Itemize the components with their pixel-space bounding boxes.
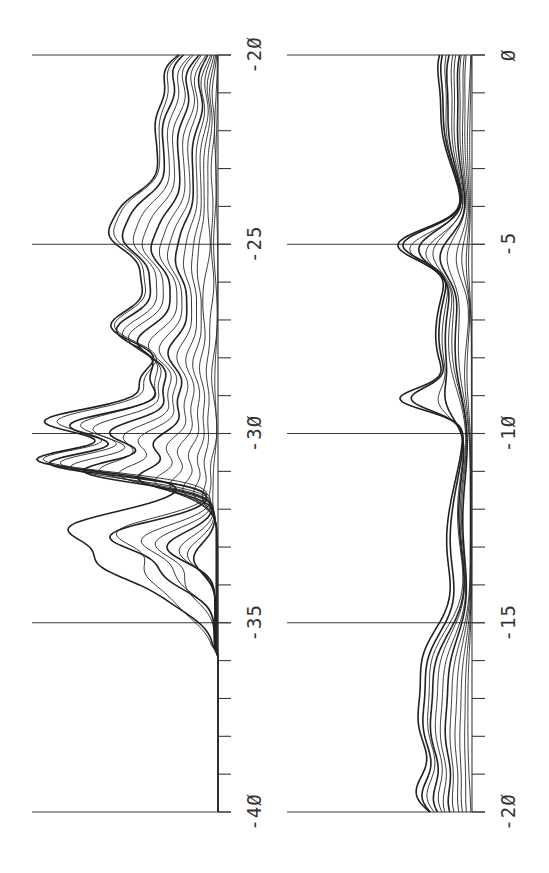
tick-label: -2Ø — [243, 36, 265, 73]
plot-canvas: -2Ø-25-3Ø-35-4Ø Ø-5-1Ø-15-2Ø — [0, 0, 549, 873]
tick-label: -5 — [497, 232, 519, 257]
right-tick-labels: Ø-5-1Ø-15-2Ø — [497, 49, 519, 831]
left-tick-labels: -2Ø-25-3Ø-35-4Ø — [243, 36, 265, 830]
stacked-spectra-figure: -2Ø-25-3Ø-35-4Ø Ø-5-1Ø-15-2Ø — [0, 0, 549, 873]
tick-label: -35 — [243, 604, 265, 641]
left-x-axis — [218, 55, 231, 812]
tick-label: -25 — [243, 226, 265, 263]
tick-label: -4Ø — [243, 793, 265, 830]
right-x-axis — [472, 55, 485, 812]
tick-label: Ø — [497, 49, 519, 61]
right-panel: Ø-5-1Ø-15-2Ø — [287, 49, 519, 831]
left-reference-lines — [32, 55, 231, 812]
tick-label: -3Ø — [243, 415, 265, 452]
left-panel: -2Ø-25-3Ø-35-4Ø — [32, 36, 265, 830]
tick-label: -2Ø — [497, 793, 519, 830]
tick-label: -1Ø — [497, 415, 519, 452]
tick-label: -15 — [497, 604, 519, 641]
